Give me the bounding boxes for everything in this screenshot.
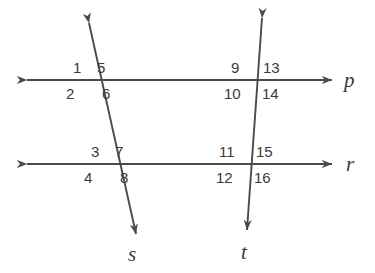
geometry-canvas xyxy=(0,0,375,273)
line-t xyxy=(247,18,262,230)
angle-12: 12 xyxy=(216,170,233,185)
angle-5: 5 xyxy=(97,60,105,75)
line-label-r: r xyxy=(346,154,354,175)
angle-8: 8 xyxy=(120,170,128,185)
line-s xyxy=(89,23,136,234)
angle-3: 3 xyxy=(91,144,99,159)
angle-9: 9 xyxy=(231,60,239,75)
angle-11: 11 xyxy=(219,144,235,159)
angle-10: 10 xyxy=(224,86,241,101)
angle-4: 4 xyxy=(84,170,92,185)
angle-15: 15 xyxy=(256,144,273,159)
angle-7: 7 xyxy=(115,144,123,159)
line-label-t: t xyxy=(241,242,247,263)
angle-14: 14 xyxy=(262,86,279,101)
angle-1: 1 xyxy=(73,60,81,75)
angle-16: 16 xyxy=(254,170,271,185)
geometry-diagram: 15269131014374811151216 prst xyxy=(0,0,375,273)
angle-2: 2 xyxy=(66,86,74,101)
angle-13: 13 xyxy=(263,60,280,75)
angle-6: 6 xyxy=(102,86,110,101)
line-label-p: p xyxy=(344,70,355,91)
line-label-s: s xyxy=(128,244,136,265)
